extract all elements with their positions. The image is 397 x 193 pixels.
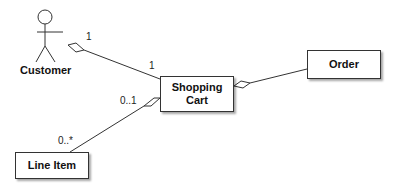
actor-customer-icon — [36, 10, 63, 62]
class-label: Cart — [186, 94, 208, 107]
aggregation-diamond-icon — [68, 43, 84, 52]
multiplicity-label: 1 — [86, 31, 92, 42]
association-cart-order — [234, 69, 307, 88]
class-shopping-cart[interactable]: Shopping Cart — [160, 76, 234, 112]
class-label: Shopping — [172, 81, 223, 94]
multiplicity-label: 1 — [149, 60, 155, 71]
class-line-item[interactable]: Line Item — [15, 152, 89, 179]
aggregation-diamond-icon — [144, 98, 160, 106]
class-label: Line Item — [28, 159, 76, 172]
multiplicity-label: 0..* — [58, 135, 73, 146]
actor-customer-label: Customer — [20, 64, 71, 76]
class-label: Order — [329, 58, 359, 71]
multiplicity-label: 0..1 — [120, 95, 137, 106]
class-order[interactable]: Order — [307, 50, 381, 79]
association-cart-lineitem — [70, 98, 160, 152]
aggregation-diamond-icon — [234, 81, 250, 88]
association-customer-cart — [68, 43, 160, 79]
